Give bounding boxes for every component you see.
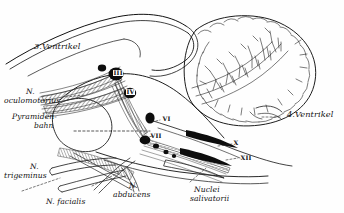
- label-trigeminus-line2: trigeminus: [4, 172, 47, 180]
- label-third-ventricle: 3.Ventrikel: [34, 42, 80, 50]
- nucleus-blob-7: [140, 136, 151, 145]
- nucleus-blob-salivatorii-a: [163, 150, 168, 154]
- label-trigeminus-line1: N.: [30, 163, 39, 171]
- fiber-bundles: [40, 67, 230, 182]
- nucleus-numeral-vii: VII: [150, 133, 162, 139]
- brainstem-illustration: [0, 0, 344, 213]
- label-oculomotorius-line2: oculomotorius: [4, 97, 60, 105]
- label-facialis: N. facialis: [46, 198, 85, 206]
- label-nuclei-salivatorii-line1: Nuclei: [194, 186, 220, 194]
- nucleus-blob-pre3: [98, 65, 106, 72]
- cranial-nerve-roots: [50, 153, 140, 193]
- nucleus-numeral-xii: XII: [240, 155, 252, 161]
- label-abducens-line1: N.: [129, 182, 138, 190]
- leader-12: [226, 158, 238, 160]
- label-abducens-line2: abducens: [113, 191, 150, 199]
- nucleus-numeral-x: X: [233, 140, 239, 146]
- label-oculomotorius-line1: N.: [26, 88, 35, 96]
- nucleus-blob-10: [186, 130, 238, 148]
- label-nuclei-salivatorii-line2: salivatorii: [190, 195, 229, 203]
- nucleus-blob-7b: [153, 143, 159, 148]
- anatomical-figure: 3.Ventrikel 4.Ventrikel N. oculomotorius…: [0, 0, 344, 213]
- nucleus-blob-salivatorii-b: [172, 154, 176, 158]
- nucleus-numeral-vi: VI: [162, 116, 171, 122]
- nucleus-numeral-iv: IV: [126, 89, 135, 95]
- label-pyramidenbahn-line2: bahn: [34, 122, 54, 130]
- label-fourth-ventricle: 4.Ventrikel: [287, 110, 333, 118]
- nucleus-numeral-iii: III: [113, 70, 123, 76]
- label-pyramidenbahn-line1: Pyramiden-: [12, 113, 57, 121]
